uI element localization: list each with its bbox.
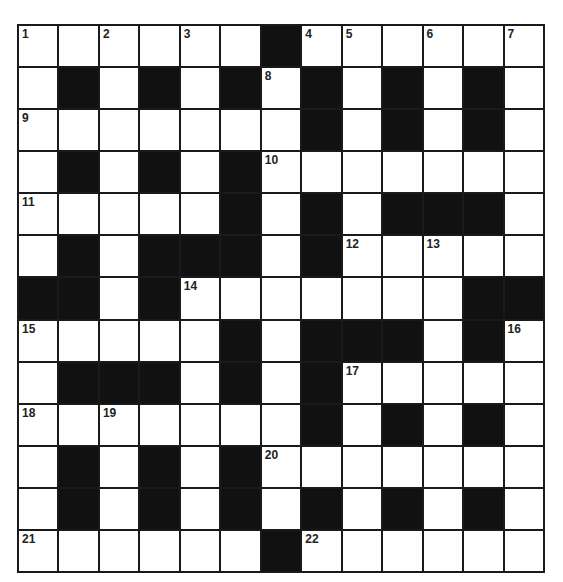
crossword-cell[interactable] <box>424 152 462 192</box>
crossword-cell[interactable] <box>262 278 300 318</box>
crossword-cell[interactable]: 14 <box>181 278 219 318</box>
crossword-cell[interactable]: 15 <box>19 321 57 361</box>
crossword-cell[interactable] <box>505 236 543 276</box>
crossword-cell[interactable] <box>424 110 462 150</box>
crossword-cell[interactable] <box>100 489 138 529</box>
crossword-cell[interactable] <box>464 26 502 66</box>
crossword-cell[interactable] <box>505 447 543 487</box>
crossword-cell[interactable] <box>221 405 259 445</box>
crossword-cell[interactable] <box>59 531 97 571</box>
crossword-cell[interactable] <box>424 68 462 108</box>
crossword-cell[interactable] <box>505 194 543 234</box>
crossword-cell[interactable] <box>140 321 178 361</box>
crossword-cell[interactable] <box>464 152 502 192</box>
crossword-cell[interactable] <box>383 363 421 403</box>
crossword-cell[interactable] <box>383 531 421 571</box>
crossword-cell[interactable] <box>262 321 300 361</box>
crossword-cell[interactable] <box>424 447 462 487</box>
crossword-cell[interactable] <box>100 236 138 276</box>
crossword-cell[interactable] <box>343 405 381 445</box>
crossword-cell[interactable] <box>343 68 381 108</box>
crossword-cell[interactable] <box>19 489 57 529</box>
crossword-cell[interactable] <box>100 447 138 487</box>
crossword-cell[interactable]: 11 <box>19 194 57 234</box>
crossword-cell[interactable] <box>100 321 138 361</box>
crossword-cell[interactable]: 21 <box>19 531 57 571</box>
crossword-cell[interactable] <box>100 278 138 318</box>
crossword-cell[interactable] <box>464 447 502 487</box>
crossword-cell[interactable] <box>302 152 340 192</box>
crossword-cell[interactable] <box>140 26 178 66</box>
crossword-cell[interactable] <box>221 26 259 66</box>
crossword-cell[interactable]: 8 <box>262 68 300 108</box>
crossword-cell[interactable] <box>59 321 97 361</box>
crossword-cell[interactable] <box>424 321 462 361</box>
crossword-cell[interactable] <box>140 531 178 571</box>
crossword-cell[interactable] <box>140 405 178 445</box>
crossword-cell[interactable] <box>262 194 300 234</box>
crossword-cell[interactable] <box>343 278 381 318</box>
crossword-cell[interactable] <box>181 321 219 361</box>
crossword-cell[interactable]: 2 <box>100 26 138 66</box>
crossword-cell[interactable] <box>100 68 138 108</box>
crossword-cell[interactable] <box>262 236 300 276</box>
crossword-cell[interactable]: 12 <box>343 236 381 276</box>
crossword-cell[interactable] <box>464 236 502 276</box>
crossword-cell[interactable] <box>59 405 97 445</box>
crossword-cell[interactable] <box>100 194 138 234</box>
crossword-cell[interactable] <box>59 26 97 66</box>
crossword-cell[interactable] <box>181 447 219 487</box>
crossword-cell[interactable] <box>383 26 421 66</box>
crossword-cell[interactable] <box>181 152 219 192</box>
crossword-cell[interactable]: 3 <box>181 26 219 66</box>
crossword-cell[interactable]: 10 <box>262 152 300 192</box>
crossword-cell[interactable] <box>343 152 381 192</box>
crossword-cell[interactable] <box>343 531 381 571</box>
crossword-cell[interactable] <box>181 405 219 445</box>
crossword-cell[interactable] <box>424 278 462 318</box>
crossword-cell[interactable] <box>343 194 381 234</box>
crossword-cell[interactable]: 5 <box>343 26 381 66</box>
crossword-cell[interactable] <box>383 447 421 487</box>
crossword-cell[interactable] <box>464 363 502 403</box>
crossword-cell[interactable] <box>302 278 340 318</box>
crossword-cell[interactable] <box>181 531 219 571</box>
crossword-cell[interactable] <box>181 110 219 150</box>
crossword-cell[interactable] <box>262 110 300 150</box>
crossword-cell[interactable]: 6 <box>424 26 462 66</box>
crossword-cell[interactable] <box>19 152 57 192</box>
crossword-cell[interactable]: 13 <box>424 236 462 276</box>
crossword-cell[interactable] <box>262 363 300 403</box>
crossword-cell[interactable] <box>505 405 543 445</box>
crossword-cell[interactable] <box>140 194 178 234</box>
crossword-cell[interactable] <box>19 447 57 487</box>
crossword-cell[interactable]: 20 <box>262 447 300 487</box>
crossword-cell[interactable]: 19 <box>100 405 138 445</box>
crossword-cell[interactable] <box>100 110 138 150</box>
crossword-cell[interactable] <box>100 531 138 571</box>
crossword-cell[interactable] <box>19 363 57 403</box>
crossword-cell[interactable] <box>505 489 543 529</box>
crossword-cell[interactable] <box>464 531 502 571</box>
crossword-cell[interactable] <box>262 489 300 529</box>
crossword-cell[interactable] <box>181 68 219 108</box>
crossword-cell[interactable] <box>181 194 219 234</box>
crossword-cell[interactable] <box>221 531 259 571</box>
crossword-cell[interactable] <box>505 68 543 108</box>
crossword-cell[interactable] <box>424 531 462 571</box>
crossword-cell[interactable] <box>505 531 543 571</box>
crossword-cell[interactable]: 7 <box>505 26 543 66</box>
crossword-cell[interactable] <box>59 194 97 234</box>
crossword-cell[interactable] <box>19 236 57 276</box>
crossword-cell[interactable] <box>59 110 97 150</box>
crossword-cell[interactable] <box>343 489 381 529</box>
crossword-cell[interactable] <box>221 278 259 318</box>
crossword-cell[interactable] <box>505 110 543 150</box>
crossword-cell[interactable]: 4 <box>302 26 340 66</box>
crossword-cell[interactable]: 1 <box>19 26 57 66</box>
crossword-cell[interactable] <box>505 363 543 403</box>
crossword-cell[interactable] <box>383 278 421 318</box>
crossword-cell[interactable] <box>100 152 138 192</box>
crossword-cell[interactable] <box>19 68 57 108</box>
crossword-cell[interactable]: 18 <box>19 405 57 445</box>
